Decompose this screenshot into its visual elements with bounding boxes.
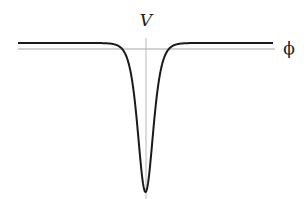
potential-plot: V ϕ bbox=[0, 0, 307, 199]
potential-curve bbox=[18, 43, 273, 192]
y-axis-label: V bbox=[140, 10, 154, 30]
x-axis-label: ϕ bbox=[283, 38, 295, 58]
